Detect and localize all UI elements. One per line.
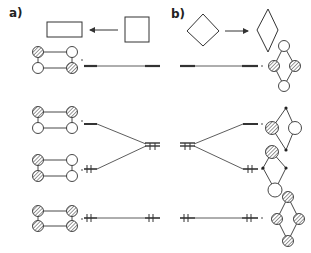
- hatched-atom: [33, 47, 44, 58]
- energy-levels-a: [84, 66, 160, 222]
- open-atom: [289, 122, 302, 135]
- open-atom: [279, 81, 290, 92]
- hatched-atom: [67, 206, 78, 217]
- diagram-canvas: a) b): [0, 0, 311, 253]
- open-atom: [67, 47, 78, 58]
- hatched-atom: [290, 61, 301, 72]
- rhombus-shape: [257, 9, 278, 52]
- hatched-atom: [33, 206, 44, 217]
- right-molecule-3: [261, 146, 287, 198]
- rectangle-shape: [47, 22, 82, 37]
- open-atom: [67, 171, 78, 182]
- level-occupied-b-4-left: [180, 214, 195, 222]
- hatched-atom: [33, 171, 44, 182]
- right-molecule-2: [266, 106, 302, 151]
- hatched-atom: [67, 107, 78, 118]
- level-occupied-a-4-right: [145, 214, 160, 222]
- orbital-correlation-diagram: [0, 0, 311, 253]
- node-dot: [261, 166, 264, 169]
- right-molecule-1: [269, 41, 301, 92]
- node-dot: [284, 166, 287, 169]
- hatched-atom: [269, 61, 280, 72]
- level-occupied-a: [84, 165, 97, 173]
- node-dot: [284, 148, 287, 151]
- open-atom: [279, 41, 290, 52]
- open-atom: [67, 123, 78, 134]
- hatched-atom: [283, 236, 294, 247]
- level-occupied-b: [243, 165, 258, 173]
- top-shapes-a: [47, 17, 149, 42]
- hatched-atom: [33, 107, 44, 118]
- hatched-atom: [33, 155, 44, 166]
- left-molecule-3: [33, 155, 78, 182]
- node-dot: [284, 106, 287, 109]
- hatched-atom: [67, 221, 78, 232]
- left-molecule-2: [33, 107, 78, 134]
- right-molecule-4: [272, 192, 305, 247]
- top-shapes-b: [187, 9, 278, 52]
- open-atom: [67, 155, 78, 166]
- hatched-atom: [67, 63, 78, 74]
- open-atom: [33, 123, 44, 134]
- panel-label-b: b): [171, 8, 185, 20]
- open-atom: [33, 63, 44, 74]
- hatched-atom: [266, 122, 279, 135]
- hatched-atom: [294, 214, 305, 225]
- left-molecule-4: [33, 206, 78, 232]
- level-occupied-a-4-left: [84, 214, 97, 222]
- hatched-atom: [283, 192, 294, 203]
- hatched-atom: [266, 146, 279, 159]
- diamond-shape: [187, 14, 219, 46]
- hatched-atom: [33, 221, 44, 232]
- square-shape: [125, 17, 149, 42]
- level-occupied-b-4-right: [242, 214, 258, 222]
- level-degenerate-center-b: [180, 143, 195, 150]
- energy-levels-b: [180, 66, 258, 222]
- hatched-atom: [272, 214, 283, 225]
- left-molecule-1: [33, 47, 78, 74]
- panel-label-a: a): [9, 7, 23, 19]
- level-degenerate-center-a: [145, 143, 160, 150]
- open-atom: [268, 183, 282, 197]
